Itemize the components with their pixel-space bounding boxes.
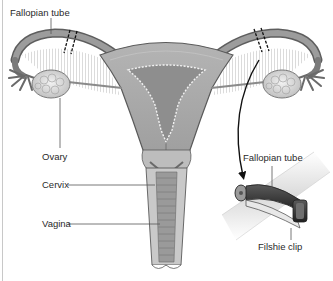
label-cervix: Cervix — [42, 180, 69, 190]
label-filshie-clip: Filshie clip — [258, 242, 302, 252]
left-ovary — [32, 70, 70, 98]
vagina — [146, 168, 187, 269]
label-ovary: Ovary — [42, 152, 67, 162]
label-fallopian-tube: Fallopian tube — [10, 8, 70, 18]
label-vagina: Vagina — [42, 219, 71, 229]
filshie-clip-inset — [222, 152, 330, 240]
cervix — [142, 150, 191, 170]
label-fallopian-tube-inset: Fallopian tube — [243, 153, 303, 163]
right-ovary — [263, 70, 301, 98]
anatomy-illustration — [0, 0, 333, 281]
figure: Fallopian tube Ovary Cervix Vagina Fallo… — [0, 0, 333, 281]
